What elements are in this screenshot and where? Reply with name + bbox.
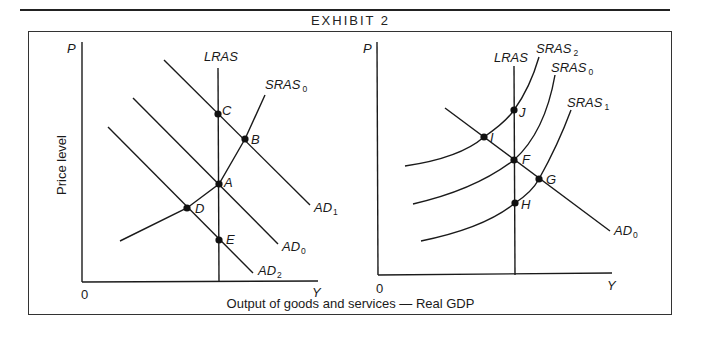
right-points (480, 106, 542, 206)
right-point-F-label: F (522, 152, 531, 167)
left-labels: P Y 0 LRAS SRAS0 AD1 AD0 AD2 C B A D E P… (54, 41, 338, 302)
right-x-axis-label: Y (607, 278, 617, 293)
right-point-G-label: G (546, 172, 556, 187)
left-ad0-line (133, 98, 278, 244)
right-origin-label: 0 (376, 281, 383, 296)
point-I (480, 133, 487, 140)
right-point-I-label: I (490, 130, 494, 145)
left-point-C-label: C (222, 103, 232, 118)
right-ad0-line (445, 108, 610, 231)
point-H (511, 199, 518, 206)
point-B (241, 135, 248, 142)
right-point-J-label: J (518, 105, 526, 120)
point-F (510, 156, 517, 163)
left-point-E-label: E (226, 232, 235, 247)
right-y-axis (377, 42, 378, 275)
right-y-axis-label: P (363, 41, 372, 56)
y-axis-caption: Price level (54, 135, 69, 195)
right-x-axis (378, 273, 612, 275)
left-ad1-label: AD1 (313, 200, 338, 217)
left-ad0-label: AD0 (281, 239, 306, 256)
point-C (214, 110, 221, 117)
point-D (183, 204, 190, 211)
point-J (510, 106, 517, 113)
right-sras1-label: SRAS1 (567, 95, 609, 112)
point-E (215, 236, 222, 243)
left-ad2-label: AD2 (257, 263, 282, 280)
x-axis-caption: Output of goods and services — Real GDP (0, 296, 701, 311)
left-sras0-label: SRAS0 (265, 77, 307, 94)
left-point-B-label: B (251, 132, 260, 147)
left-y-axis-label: P (67, 41, 76, 56)
left-lras-label: LRAS (204, 49, 238, 64)
left-ad2-line (108, 127, 253, 273)
left-point-D-label: D (195, 201, 204, 216)
left-points (183, 110, 248, 243)
point-G (535, 175, 542, 182)
left-lras-line (218, 68, 219, 282)
right-ad0-label: AD0 (613, 223, 638, 240)
left-x-axis (82, 281, 318, 282)
right-labels: P Y 0 LRAS SRAS2 SRAS0 SRAS1 AD0 J I F G… (363, 41, 638, 296)
point-A (215, 180, 222, 187)
right-sras0-label: SRAS0 (551, 60, 593, 77)
left-point-A-label: A (223, 175, 233, 190)
left-sras0-line (120, 95, 265, 241)
right-sras2-label: SRAS2 (536, 41, 578, 58)
right-lras-label: LRAS (494, 50, 528, 65)
right-lras-line (514, 66, 515, 275)
right-panel (377, 42, 612, 275)
right-point-H-label: H (521, 197, 531, 212)
